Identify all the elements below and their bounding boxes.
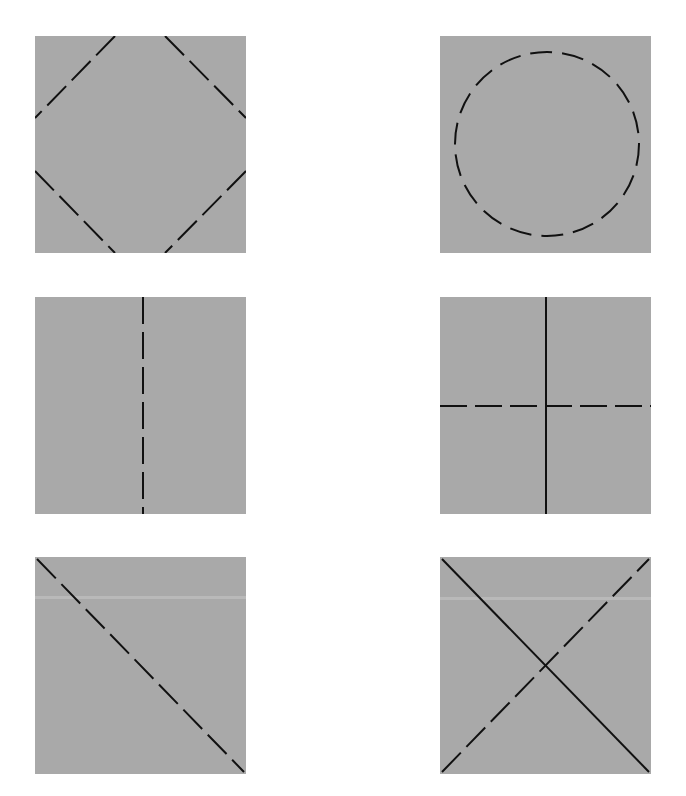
light-strip [440, 597, 651, 600]
panel-vertical-dashed: Vertical dashed center line [35, 297, 246, 514]
paper-square [35, 36, 246, 253]
panel-circle: Dashed circle [440, 36, 651, 253]
panel-diagonal-dashed: Dashed diagonal from top-left to bottom-… [35, 557, 246, 774]
diamond-fold-lines [35, 36, 246, 253]
cross-fold-lines [440, 297, 651, 514]
x-fold-lines [440, 557, 651, 774]
panel-x-diagonals: Solid diagonal top-left to bottom-right … [440, 557, 651, 774]
light-strip [35, 596, 246, 599]
vertical-fold-lines [35, 297, 246, 514]
diagonal-fold-lines [35, 557, 246, 774]
fold-diagram-canvas: Dashed diamond with corners cut Dashed c… [0, 0, 686, 796]
panel-cross: Solid vertical line and dashed horizonta… [440, 297, 651, 514]
panel-diamond: Dashed diamond with corners cut [35, 36, 246, 253]
paper-square [440, 36, 651, 253]
paper-square [35, 297, 246, 514]
circle-fold-lines [440, 36, 651, 253]
